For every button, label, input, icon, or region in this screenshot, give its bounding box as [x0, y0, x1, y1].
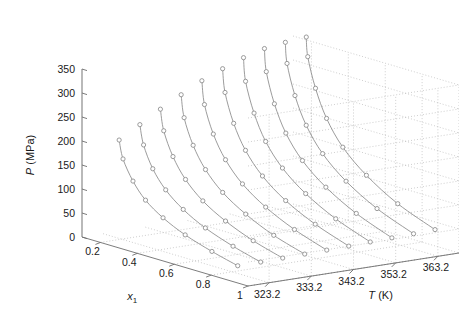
data-point-marker [347, 244, 351, 248]
data-point-marker [368, 240, 372, 244]
data-point-marker [203, 167, 207, 171]
data-point-marker [203, 226, 207, 230]
data-point-marker [292, 227, 296, 231]
p-axis-tick-label: 350 [57, 63, 75, 75]
data-point-marker [293, 93, 297, 97]
data-point-marker [390, 236, 394, 240]
data-point-marker [121, 157, 125, 161]
data-point-marker [223, 90, 227, 94]
data-point-marker [313, 86, 317, 90]
data-point-marker [303, 252, 307, 256]
data-point-marker [281, 256, 285, 260]
data-point-marker [231, 244, 235, 248]
data-point-marker [143, 198, 147, 202]
data-point-marker [223, 219, 227, 223]
p-axis-tick-label: 150 [57, 159, 75, 171]
data-point-marker [325, 248, 329, 252]
data-point-marker [375, 206, 379, 210]
data-point-marker [138, 123, 142, 127]
p-axis-tick-label: 300 [57, 87, 75, 99]
data-point-marker [131, 179, 135, 183]
data-point-marker [354, 211, 358, 215]
data-point-marker [341, 145, 345, 149]
data-point-marker [164, 188, 168, 192]
data-point-marker [183, 177, 187, 181]
data-point-marker [324, 185, 328, 189]
data-point-marker [211, 132, 215, 136]
data-point-marker [141, 143, 145, 147]
data-point-marker [364, 173, 368, 177]
data-point-marker [272, 233, 276, 237]
t-axis-title: T (K) [368, 289, 392, 301]
p-axis-tick-label: 50 [63, 207, 75, 219]
data-point-marker [304, 35, 308, 39]
t-axis-tick-label: 353.2 [381, 268, 407, 280]
data-point-marker [262, 46, 266, 50]
t-axis-tick-label: 333.2 [296, 281, 322, 293]
data-point-marker [200, 79, 204, 83]
data-point-marker [280, 166, 284, 170]
3d-plot-svg: 0501001502002503003500.20.40.60.81323.23… [0, 0, 459, 330]
data-point-marker [264, 139, 268, 143]
data-point-marker [252, 111, 256, 115]
data-point-marker [284, 131, 288, 135]
x-axis-tick-label: 0.8 [196, 278, 211, 290]
data-point-marker [283, 40, 287, 44]
data-point-marker [396, 202, 400, 206]
data-point-marker [158, 107, 162, 111]
data-point-marker [272, 102, 276, 106]
x-axis-tick-label: 0.2 [85, 245, 100, 257]
data-point-marker [183, 233, 187, 237]
data-point-marker [433, 228, 437, 232]
p-axis-tick-label: 200 [57, 135, 75, 147]
data-point-marker [201, 199, 205, 203]
data-point-marker [251, 239, 255, 243]
x-axis-tick-label: 0.6 [159, 267, 174, 279]
data-point-marker [244, 212, 248, 216]
data-point-marker [162, 129, 166, 133]
data-point-marker [243, 148, 247, 152]
data-point-marker [191, 143, 195, 147]
data-point-marker [285, 61, 289, 65]
data-point-marker [181, 207, 185, 211]
data-point-marker [304, 123, 308, 127]
data-point-marker [232, 121, 236, 125]
data-point-marker [300, 158, 304, 162]
data-point-marker [202, 102, 206, 106]
data-point-marker [161, 216, 165, 220]
p-axis-tick-label: 0 [69, 231, 75, 243]
data-point-marker [334, 217, 338, 221]
data-point-marker [321, 152, 325, 156]
data-point-marker [241, 56, 245, 60]
data-point-marker [264, 205, 268, 209]
x-axis-tick-label: 1 [237, 289, 243, 301]
data-point-marker [313, 222, 317, 226]
data-point-marker [210, 249, 214, 253]
data-point-marker [284, 199, 288, 203]
data-point-marker [223, 158, 227, 162]
data-point-marker [260, 174, 264, 178]
data-point-marker [324, 116, 328, 120]
data-point-marker [171, 154, 175, 158]
data-point-marker [259, 260, 263, 264]
data-point-marker [240, 182, 244, 186]
data-point-marker [179, 93, 183, 97]
data-point-marker [344, 179, 348, 183]
t-axis-tick-label: 323.2 [254, 288, 280, 300]
data-point-marker [306, 55, 310, 59]
p-axis-tick-label: 100 [57, 183, 75, 195]
p-axis-tick-label: 250 [57, 111, 75, 123]
t-axis-tick-label: 363.2 [423, 261, 449, 273]
data-point-marker [117, 138, 121, 142]
data-point-marker [151, 167, 155, 171]
data-point-marker [236, 264, 240, 268]
x-axis-tick-label: 0.4 [122, 256, 137, 268]
data-point-marker [221, 190, 225, 194]
figure-container: 0501001502002503003500.20.40.60.81323.23… [0, 0, 459, 330]
data-point-marker [411, 232, 415, 236]
data-point-marker [243, 79, 247, 83]
data-point-marker [221, 67, 225, 71]
data-point-marker [182, 116, 186, 120]
t-axis-tick-label: 343.2 [338, 275, 364, 287]
data-point-marker [304, 192, 308, 196]
